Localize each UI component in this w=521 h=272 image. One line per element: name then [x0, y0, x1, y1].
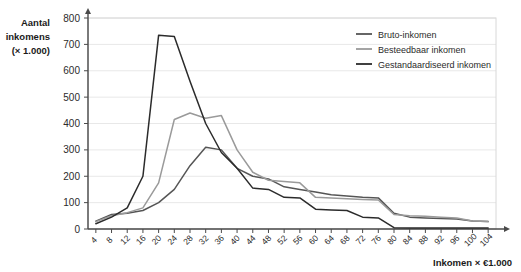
y-tick-label: 700	[63, 39, 80, 50]
y-axis-title-line-2: inkomens	[6, 31, 50, 42]
x-tick-label: 52	[275, 233, 289, 247]
x-tick-label: 44	[244, 233, 258, 247]
y-tick-label: 200	[63, 171, 80, 182]
y-tick-label: 0	[74, 224, 80, 235]
income-distribution-chart: 0100200300400500600700800 48121620242832…	[0, 0, 521, 272]
y-tick-label: 400	[63, 118, 80, 129]
x-tick-label: 20	[150, 233, 164, 247]
x-tick-label: 32	[197, 233, 211, 247]
x-tick-label: 80	[385, 233, 399, 247]
x-tick-label: 60	[307, 233, 321, 247]
y-tick-label: 800	[63, 13, 80, 24]
x-tick-label: 28	[181, 233, 195, 247]
legend-label-0: Bruto-inkomen	[378, 30, 437, 40]
x-tick-label: 16	[134, 233, 148, 247]
chart-x-tick-labels: 4812162024283236404448525660646872768084…	[89, 229, 495, 248]
x-tick-label: 104	[477, 231, 494, 248]
legend-label-2: Gestandaardiseerd inkomen	[378, 60, 491, 70]
x-tick-label: 56	[291, 233, 305, 247]
x-tick-label: 88	[416, 233, 430, 247]
x-tick-label: 100	[462, 231, 479, 248]
x-tick-label: 72	[354, 233, 368, 247]
x-tick-label: 76	[369, 233, 383, 247]
x-axis-title: Inkomen × €1.000	[433, 257, 512, 268]
x-tick-label: 48	[259, 233, 273, 247]
x-tick-label: 96	[448, 233, 462, 247]
x-tick-label: 92	[432, 233, 446, 247]
chart-legend: Bruto-inkomenBesteedbaar inkomenGestanda…	[356, 30, 491, 70]
chart-page: 0100200300400500600700800 48121620242832…	[0, 0, 521, 272]
x-tick-label: 36	[212, 233, 226, 247]
x-tick-label: 12	[118, 233, 132, 247]
y-tick-label: 600	[63, 65, 80, 76]
chart-y-tick-labels: 0100200300400500600700800	[63, 13, 88, 235]
x-tick-label: 24	[165, 233, 179, 247]
legend-label-1: Besteedbaar inkomen	[378, 45, 466, 55]
x-tick-label: 4	[89, 234, 100, 245]
y-tick-label: 300	[63, 144, 80, 155]
x-tick-label: 40	[228, 233, 242, 247]
x-tick-label: 64	[322, 233, 336, 247]
y-axis-title-line-1: Aantal	[21, 17, 50, 28]
x-tick-label: 84	[401, 233, 415, 247]
chart-y-axis-title: Aantalinkomens(× 1.000)	[6, 17, 50, 56]
chart-x-axis-title: Inkomen × €1.000	[433, 257, 512, 268]
y-axis-arrow	[85, 8, 91, 14]
y-tick-label: 500	[63, 92, 80, 103]
x-axis-arrow	[504, 226, 510, 232]
series-line-0	[96, 147, 488, 221]
x-tick-label: 68	[338, 233, 352, 247]
y-tick-label: 100	[63, 197, 80, 208]
x-tick-label: 8	[104, 234, 115, 245]
y-axis-title-line-3: (× 1.000)	[12, 45, 50, 56]
